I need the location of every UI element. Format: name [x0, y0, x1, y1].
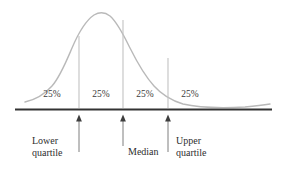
percent-label-q4: 25%: [176, 89, 204, 99]
label-upper-quartile: Upper quartile: [176, 135, 207, 158]
label-lower-quartile: Lower quartile: [32, 135, 63, 158]
label-upper-quartile-line2: quartile: [176, 147, 207, 159]
percent-label-q3: 25%: [131, 89, 159, 99]
arrow-lower-quartile: [76, 115, 82, 153]
percent-label-q2: 25%: [87, 89, 115, 99]
label-median: Median: [128, 146, 159, 158]
percent-label-q1: 25%: [38, 89, 66, 99]
quartile-distribution-figure: 25% 25% 25% 25% Lower quartile Median Up…: [0, 0, 285, 174]
arrow-median: [120, 115, 126, 147]
arrow-upper-quartile: [165, 115, 171, 153]
label-upper-quartile-line1: Upper: [176, 135, 207, 147]
label-median-line1: Median: [128, 146, 159, 158]
label-lower-quartile-line1: Lower: [32, 135, 63, 147]
label-lower-quartile-line2: quartile: [32, 147, 63, 159]
